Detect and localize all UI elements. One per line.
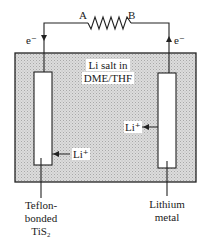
lithium-label-line1: Lithium bbox=[143, 198, 191, 210]
electrolyte-label-line2: DME/THF bbox=[82, 72, 134, 84]
electron-left-label: e⁻ bbox=[26, 34, 37, 46]
li-ion-left-label: Li⁺ bbox=[72, 148, 90, 160]
tis2-label-line2: bonded bbox=[18, 212, 64, 224]
lithium-electrode bbox=[158, 73, 176, 168]
terminal-a-label: A bbox=[79, 9, 87, 21]
tis2-label-line1: Teflon- bbox=[18, 199, 64, 211]
resistor bbox=[88, 17, 131, 29]
li-ion-right-label: Li⁺ bbox=[124, 121, 142, 133]
terminal-b-label: B bbox=[128, 9, 135, 21]
tis2-electrode bbox=[34, 72, 52, 165]
tis2-label-line3: TiS₂ bbox=[18, 225, 64, 237]
electron-arrow-left bbox=[41, 35, 47, 41]
electron-arrow-right bbox=[166, 36, 172, 42]
electrolyte-label-line1: Li salt in bbox=[86, 59, 130, 71]
lithium-label-line2: metal bbox=[143, 211, 191, 223]
electron-right-label: e⁻ bbox=[174, 34, 185, 46]
